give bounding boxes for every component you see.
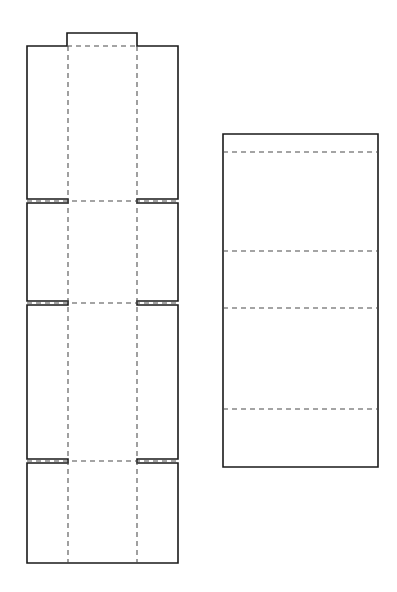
dieline-svg (0, 0, 397, 592)
main-net-group (27, 33, 178, 563)
drawing-canvas (0, 0, 397, 592)
right-panel-group (223, 134, 378, 467)
right-panel-fill (223, 134, 378, 467)
main-net-fill (27, 33, 178, 563)
